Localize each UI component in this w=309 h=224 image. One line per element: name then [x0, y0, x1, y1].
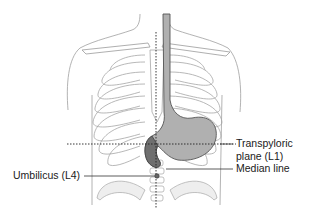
median-line-label: Median line — [236, 163, 290, 174]
sternum — [150, 50, 164, 122]
transpyloric-label-2: plane (L1) — [236, 151, 283, 162]
anatomy-figure — [0, 0, 309, 224]
transpyloric-label-1: Transpyloric — [236, 138, 293, 149]
umbilicus-marker — [155, 174, 159, 178]
umbilicus-label: Umbilicus (L4) — [13, 170, 80, 181]
